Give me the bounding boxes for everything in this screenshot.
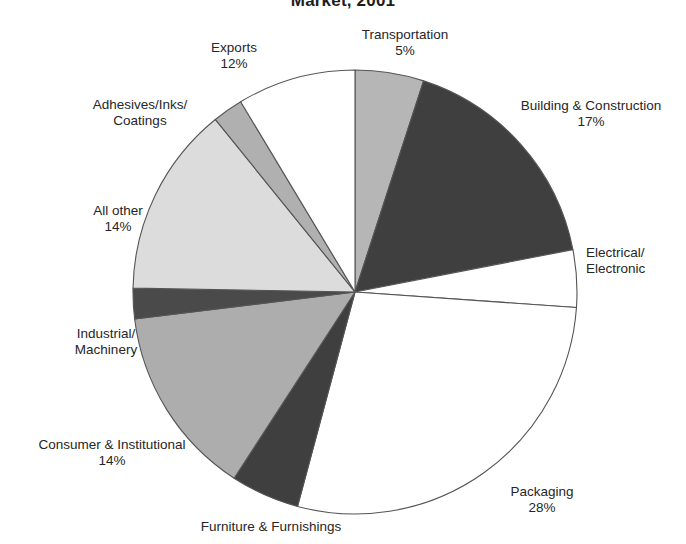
slice-label-furniture-furnishings-name: Furniture & Furnishings xyxy=(158,519,384,535)
slice-label-exports-percent: 12% xyxy=(182,56,286,72)
slice-label-industrial-machinery-line1: Industrial/ xyxy=(44,326,168,342)
slice-label-packaging-percent: 28% xyxy=(482,500,602,516)
slice-label-packaging: Packaging 28% xyxy=(482,484,602,515)
slice-label-transportation: Transportation 5% xyxy=(335,27,475,58)
slice-label-all-other-name: All other xyxy=(60,203,176,219)
slice-label-consumer-institutional-percent: 14% xyxy=(6,453,218,469)
slice-label-electrical-electronic-line2: Electronic xyxy=(586,261,686,277)
slice-label-electrical-electronic-line1: Electrical/ xyxy=(586,245,686,261)
slice-label-transportation-percent: 5% xyxy=(335,43,475,59)
slice-label-all-other: All other 14% xyxy=(60,203,176,234)
slice-label-adhesives-inks-coatings: Adhesives/Inks/ Coatings xyxy=(62,97,218,128)
slice-label-consumer-institutional-name: Consumer & Institutional xyxy=(6,437,218,453)
slice-label-industrial-machinery: Industrial/ Machinery xyxy=(44,326,168,357)
slice-label-exports-name: Exports xyxy=(182,40,286,56)
slice-label-electrical-electronic: Electrical/ Electronic xyxy=(586,245,686,276)
slice-label-building-construction: Building & Construction 17% xyxy=(496,98,686,129)
slice-label-exports: Exports 12% xyxy=(182,40,286,71)
slice-label-packaging-name: Packaging xyxy=(482,484,602,500)
slice-label-industrial-machinery-line2: Machinery xyxy=(44,342,168,358)
slice-label-furniture-furnishings: Furniture & Furnishings xyxy=(158,519,384,535)
slice-label-adhesives-inks-coatings-line2: Coatings xyxy=(62,113,218,129)
slice-label-adhesives-inks-coatings-line1: Adhesives/Inks/ xyxy=(62,97,218,113)
slice-label-building-construction-name: Building & Construction xyxy=(496,98,686,114)
slice-label-building-construction-percent: 17% xyxy=(496,114,686,130)
slice-label-transportation-name: Transportation xyxy=(335,27,475,43)
slice-label-all-other-percent: 14% xyxy=(60,219,176,235)
slice-label-consumer-institutional: Consumer & Institutional 14% xyxy=(6,437,218,468)
pie-chart-figure: Market, 2001 Transportation 5% Building … xyxy=(0,0,686,544)
